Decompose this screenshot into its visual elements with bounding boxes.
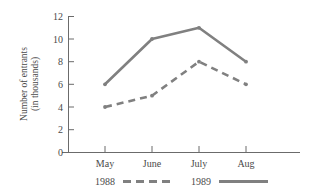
y-axis-title-line1: Number of entrants [19,47,29,121]
series-line-1989 [105,28,246,85]
line-chart: 12 10 8 6 4 2 0 May June July Aug Number… [0,0,309,195]
series-line-1988 [105,62,246,107]
y-tick-label-0: 0 [58,147,63,158]
legend-label-1989: 1989 [191,176,211,187]
x-tick-label-may: May [96,158,114,169]
y-tick-label-4: 4 [58,102,63,113]
x-tick-label-july: July [191,158,208,169]
y-tick-label-12: 12 [53,11,63,22]
x-tick-label-aug: Aug [237,158,254,169]
x-tick-label-june: June [143,158,162,169]
chart-canvas: 12 10 8 6 4 2 0 May June July Aug Number… [0,0,309,195]
y-tick-label-2: 2 [58,124,63,135]
x-axis-ticks [105,146,246,153]
legend-label-1988: 1988 [95,176,115,187]
y-axis-ticks [69,17,75,130]
chart-legend: 1988 1989 [95,176,268,187]
series-markers-1988 [103,60,248,109]
y-tick-label-8: 8 [58,56,63,67]
y-tick-label-10: 10 [53,34,63,45]
y-axis-title-line2: (in thousands) [30,57,41,111]
y-tick-label-6: 6 [58,79,63,90]
